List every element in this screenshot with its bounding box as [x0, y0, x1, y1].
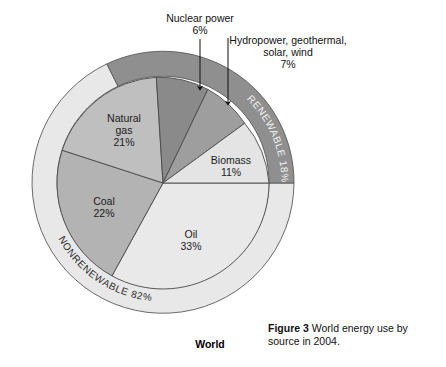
hydro-callout-line3: 7% — [280, 58, 295, 70]
nuclear-callout-line2: 6% — [192, 24, 207, 36]
oil-percent: 33% — [180, 240, 201, 252]
natural-gas-percent: 21% — [113, 136, 134, 148]
biomass-name: Biomass — [211, 154, 251, 166]
hydro-callout-line2: solar, wind — [263, 46, 313, 58]
hydro-callout-line1: Hydropower, geothermal, — [229, 34, 346, 46]
natural-gas-name-line1: Natural — [107, 112, 141, 124]
chart-title-world: World — [195, 338, 225, 350]
pie-slices-group — [57, 77, 269, 289]
nuclear-callout-line1: Nuclear power — [166, 12, 234, 24]
coal-percent: 22% — [93, 207, 114, 219]
figure-caption: Figure 3 World energy use by source in 2… — [268, 322, 440, 348]
pie-chart-figure: NONRENEWABLE 82% RENEWABLE 18% Natural g… — [0, 0, 446, 367]
figure-canvas: NONRENEWABLE 82% RENEWABLE 18% Natural g… — [0, 0, 446, 367]
coal-name: Coal — [93, 195, 115, 207]
natural-gas-name-line2: gas — [116, 124, 133, 136]
biomass-percent: 11% — [221, 166, 241, 178]
slice-label-coal: Coal 22% — [93, 195, 115, 219]
oil-name: Oil — [185, 228, 198, 240]
figure-caption-label: Figure 3 — [268, 322, 309, 334]
